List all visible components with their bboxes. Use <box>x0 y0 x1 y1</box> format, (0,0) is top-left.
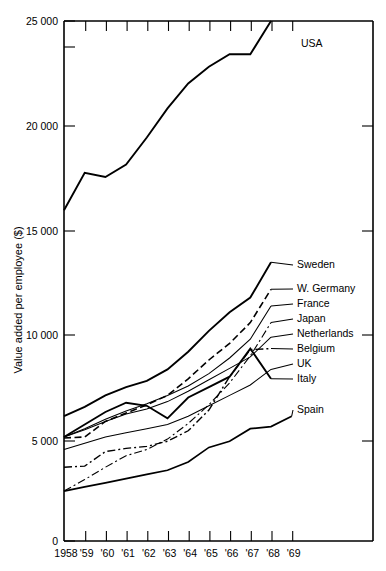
series-line-netherlands <box>64 337 271 437</box>
x-tick-label: '65 <box>204 547 218 559</box>
leader-line-uk <box>271 364 293 369</box>
y-tick-label: 25 000 <box>26 15 58 27</box>
series-line-belgium <box>64 349 271 468</box>
series-label-belgium: Belgium <box>297 342 335 354</box>
y-tick-label: 15 000 <box>26 225 58 237</box>
leader-line-sweden <box>271 262 293 265</box>
x-tick-label: '59 <box>80 547 94 559</box>
series-label-sweden: Sweden <box>297 258 335 270</box>
plot-frame <box>64 21 373 541</box>
x-tick-label: '68 <box>266 547 280 559</box>
x-tick-label: '60 <box>101 547 115 559</box>
series-layer <box>64 21 292 491</box>
series-label-italy: Italy <box>297 372 317 384</box>
y-axis-title: Value added per employee ($) <box>12 226 24 373</box>
series-label-japan: Japan <box>297 312 326 324</box>
x-axis-tick-labels: 1958 '59 '60 '61 '62 '63 '64 '65 '66 '67… <box>54 547 300 559</box>
series-line-usa <box>64 21 271 210</box>
series-line-japan <box>64 323 271 492</box>
x-tick-label: '62 <box>142 547 156 559</box>
x-tick-label: '67 <box>245 547 259 559</box>
series-labels: USASwedenW. GermanyFranceJapanNetherland… <box>297 37 356 415</box>
y-axis-tick-labels: 25 000 20 000 15 000 10 000 5 000 0 <box>26 15 58 547</box>
x-tick-label: '66 <box>225 547 239 559</box>
y-tick-marks-right <box>362 126 373 441</box>
y-tick-label: 0 <box>52 535 58 547</box>
line-chart: 25 000 20 000 15 000 10 000 5 000 0 1958… <box>0 0 386 571</box>
x-tick-label: '63 <box>163 547 177 559</box>
y-tick-label: 10 000 <box>26 329 58 341</box>
series-label-spain: Spain <box>297 403 324 415</box>
series-label-france: France <box>297 297 330 309</box>
leader-line-netherlands <box>271 334 293 337</box>
series-label-netherlands: Netherlands <box>297 327 354 339</box>
x-tick-label: '64 <box>183 547 197 559</box>
series-line-sweden <box>64 262 271 416</box>
series-label-usa: USA <box>301 37 323 49</box>
series-label-uk: UK <box>297 357 312 369</box>
y-tick-label: 20 000 <box>26 120 58 132</box>
x-tick-label: '69 <box>287 547 301 559</box>
series-line-uk <box>64 369 271 449</box>
leader-lines <box>271 262 293 416</box>
x-tick-marks-bottom <box>86 531 293 541</box>
leader-line-spain <box>292 410 293 416</box>
leader-line-france <box>271 304 293 306</box>
y-tick-marks <box>64 21 75 541</box>
y-tick-label: 5 000 <box>32 435 58 447</box>
series-label-w-germany: W. Germany <box>297 282 356 294</box>
x-tick-marks-top <box>86 21 293 31</box>
x-tick-label: 1958 <box>54 547 78 559</box>
chart-container: 25 000 20 000 15 000 10 000 5 000 0 1958… <box>0 0 386 571</box>
x-tick-label: '61 <box>121 547 135 559</box>
leader-line-japan <box>271 319 293 323</box>
